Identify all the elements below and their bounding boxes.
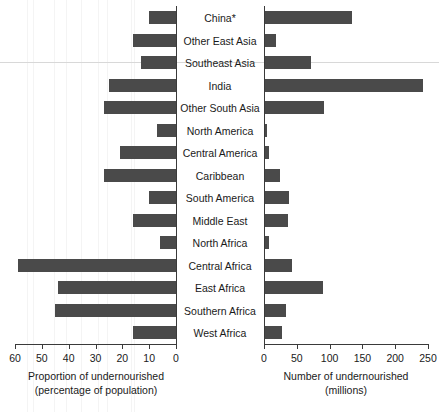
right-axis-tick (330, 345, 331, 349)
bar-number (264, 34, 276, 47)
chart-row: Central America (0, 141, 439, 165)
bar-proportion (104, 101, 176, 114)
left-axis-tick (96, 345, 97, 349)
row-category-label: China* (177, 11, 263, 25)
bar-number (264, 304, 286, 317)
row-category-label: North Africa (177, 236, 263, 250)
right-axis-tick-label: 0 (249, 352, 279, 364)
chart-row: South America (0, 186, 439, 210)
chart-row: North America (0, 119, 439, 143)
bar-proportion (109, 79, 176, 92)
bar-proportion (55, 304, 176, 317)
row-category-label: Middle East (177, 214, 263, 228)
right-axis-inner-edge (264, 6, 265, 345)
right-axis-tick-label: 250 (413, 352, 439, 364)
chart-row: Caribbean (0, 164, 439, 188)
right-axis-tick-label: 50 (282, 352, 312, 364)
row-category-label: Southeast Asia (177, 56, 263, 70)
bar-number (264, 191, 289, 204)
left-axis-tick-label: 30 (81, 352, 111, 364)
right-axis-caption-line2: (millions) (250, 383, 439, 397)
row-category-label: South America (177, 191, 263, 205)
left-axis-tick-label: 10 (134, 352, 164, 364)
chart-row: North Africa (0, 231, 439, 255)
bar-proportion (104, 169, 176, 182)
bar-proportion (58, 281, 176, 294)
right-axis-caption: Number of undernourished (millions) (250, 369, 439, 397)
row-category-label: North America (177, 124, 263, 138)
left-axis-tick (149, 345, 150, 349)
row-category-label: Central America (177, 146, 263, 160)
chart-row: Middle East (0, 209, 439, 233)
bar-number (264, 281, 323, 294)
right-axis-caption-line1: Number of undernourished (250, 369, 439, 383)
left-axis-tick (69, 345, 70, 349)
right-axis-tick (297, 345, 298, 349)
left-axis-tick-label: 20 (107, 352, 137, 364)
chart-row: Central Africa (0, 254, 439, 278)
bar-number (264, 79, 423, 92)
right-axis-tick-label: 150 (347, 352, 377, 364)
bar-proportion (157, 124, 176, 137)
chart-row: Southern Africa (0, 299, 439, 323)
row-category-label: Southern Africa (177, 304, 263, 318)
chart-row: Southeast Asia (0, 51, 439, 75)
chart-row: East Africa (0, 276, 439, 300)
bar-proportion (149, 11, 176, 24)
left-axis-tick-label: 60 (0, 352, 30, 364)
row-category-label: Other South Asia (177, 101, 263, 115)
left-axis-tick-label: 40 (54, 352, 84, 364)
bar-proportion (160, 236, 176, 249)
diverging-bar-chart: China*Other East AsiaSoutheast AsiaIndia… (0, 0, 439, 412)
chart-row: Other South Asia (0, 96, 439, 120)
left-axis-tick (42, 345, 43, 349)
chart-row: China* (0, 6, 439, 30)
bar-proportion (120, 146, 176, 159)
left-axis-caption-line1: Proportion of undernourished (0, 369, 192, 383)
left-axis-inner-edge (176, 6, 177, 345)
bar-proportion (133, 214, 176, 227)
row-category-label: Caribbean (177, 169, 263, 183)
row-category-label: Other East Asia (177, 34, 263, 48)
row-category-label: West Africa (177, 326, 263, 340)
bar-number (264, 326, 282, 339)
right-axis-tick (264, 345, 265, 349)
right-axis-tick-label: 200 (380, 352, 410, 364)
right-axis-tick (395, 345, 396, 349)
left-axis-tick (15, 345, 16, 349)
row-category-label: East Africa (177, 281, 263, 295)
chart-row: India (0, 74, 439, 98)
bar-proportion (133, 34, 176, 47)
bar-number (264, 101, 324, 114)
left-axis-tick-label: 0 (161, 352, 191, 364)
bar-proportion (133, 326, 176, 339)
bar-proportion (149, 191, 176, 204)
left-axis-tick-label: 50 (27, 352, 57, 364)
bar-number (264, 56, 311, 69)
left-axis-tick (176, 345, 177, 349)
bar-number (264, 259, 292, 272)
chart-row: West Africa (0, 321, 439, 345)
right-axis-tick (428, 345, 429, 349)
bar-proportion (18, 259, 176, 272)
right-axis-tick-label: 100 (315, 352, 345, 364)
row-category-label: Central Africa (177, 259, 263, 273)
left-axis-tick (122, 345, 123, 349)
left-axis-caption: Proportion of undernourished (percentage… (0, 369, 192, 397)
chart-row: Other East Asia (0, 29, 439, 53)
right-axis-tick (362, 345, 363, 349)
row-category-label: India (177, 79, 263, 93)
bar-number (264, 214, 288, 227)
bar-number (264, 169, 280, 182)
right-axis-line (264, 344, 429, 345)
bar-number (264, 11, 352, 24)
bar-proportion (141, 56, 176, 69)
left-axis-caption-line2: (percentage of population) (0, 383, 192, 397)
